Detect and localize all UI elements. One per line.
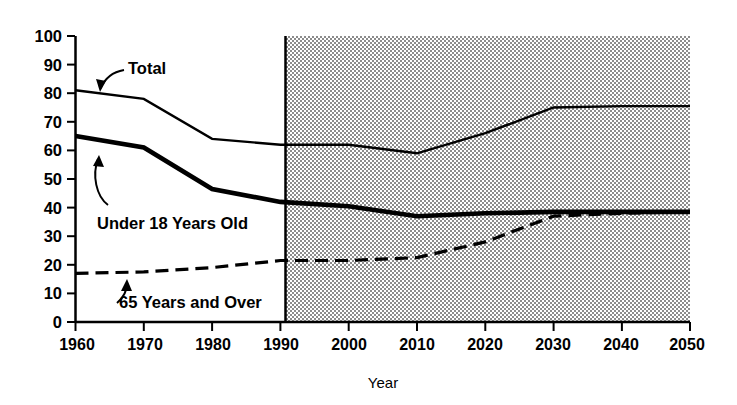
x-tick-label-1980: 1980 [195,336,231,353]
x-tick-label-2040: 2040 [603,336,639,353]
y-tick-label-80: 80 [44,84,62,102]
y-tick-label-20: 20 [44,256,62,274]
y-tick-label-40: 40 [44,199,62,217]
x-tick-label-2010: 2010 [399,336,435,353]
y-tick-marks [67,36,75,322]
y-tick-label-10: 10 [44,284,62,302]
projection-shaded-region [285,36,690,322]
chart-figure: 0 10 20 30 40 50 60 70 80 90 100 [0,0,737,405]
y-tick-label-70: 70 [44,113,62,131]
annotation-total-label: Total [128,59,166,77]
x-tick-label-1990: 1990 [263,336,299,353]
annotation-under-18-label: Under 18 Years Old [97,214,248,232]
x-tick-labels: 1960 1970 1980 1990 2000 2010 2020 2030 … [59,336,705,353]
x-tick-label-2020: 2020 [467,336,503,353]
x-tick-label-2030: 2030 [535,336,571,353]
y-tick-label-30: 30 [44,227,62,245]
x-tick-label-2000: 2000 [331,336,367,353]
x-tick-marks [76,322,691,331]
x-tick-label-1970: 1970 [127,336,163,353]
y-tick-label-50: 50 [44,170,62,188]
y-tick-label-90: 90 [44,56,62,74]
y-tick-label-60: 60 [44,141,62,159]
annotation-65-and-over-label: 65 Years and Over [119,293,262,311]
annotation-total: Total [96,59,166,92]
annotation-65-and-over: 65 Years and Over [117,279,262,311]
x-tick-label-2050: 2050 [669,336,705,353]
x-tick-label-1960: 1960 [59,336,95,353]
dependency-ratio-line-chart: 0 10 20 30 40 50 60 70 80 90 100 [0,0,737,405]
y-tick-labels: 0 10 20 30 40 50 60 70 80 90 100 [34,27,62,331]
x-axis-title: Year [368,374,398,391]
y-tick-label-100: 100 [34,27,62,45]
y-tick-label-0: 0 [53,313,62,331]
